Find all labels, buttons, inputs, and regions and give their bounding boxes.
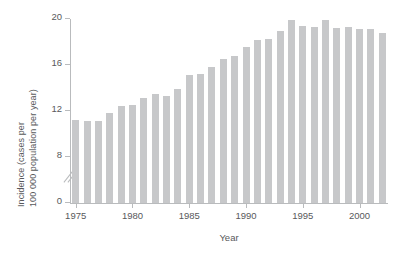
y-tick-label-20: 20 (51, 11, 62, 22)
bar-1986 (197, 74, 204, 203)
bar-chart-figure: Incidence (cases per 100 000 population … (0, 0, 404, 254)
y-axis-title: Incidence (cases per 100 000 population … (0, 0, 50, 215)
bar-1998 (333, 28, 340, 203)
x-axis-title: Year (70, 232, 388, 243)
bar-1981 (140, 98, 147, 203)
bar-1992 (265, 39, 272, 203)
bar-1975 (72, 120, 79, 203)
x-tick-label-1980: 1980 (122, 210, 143, 221)
x-tick-1975 (76, 203, 77, 208)
x-tick-1985 (189, 203, 190, 208)
x-tick-1990 (246, 203, 247, 208)
bar-1979 (118, 106, 125, 203)
y-axis-title-line-2: 100 000 population per year) (28, 89, 38, 207)
x-tick-label-2000: 2000 (349, 210, 370, 221)
bar-1990 (243, 47, 250, 203)
y-tick-label-12: 12 (51, 103, 62, 114)
bar-1984 (174, 89, 181, 203)
bar-1988 (220, 59, 227, 203)
x-tick-label-1975: 1975 (65, 210, 86, 221)
x-tick-label-1995: 1995 (292, 210, 313, 221)
bar-1989 (231, 56, 238, 203)
x-axis-line (70, 203, 388, 204)
bar-1977 (95, 121, 102, 203)
bar-1983 (163, 96, 170, 203)
bar-1995 (299, 26, 306, 203)
bar-1997 (322, 20, 329, 203)
bar-1980 (129, 105, 136, 203)
bar-1978 (106, 113, 113, 203)
y-tick-label-0: 0 (57, 195, 62, 206)
x-tick-label-1985: 1985 (179, 210, 200, 221)
y-axis-title-line-1: Incidence (cases per (16, 122, 26, 207)
x-tick-2000 (360, 203, 361, 208)
bar-1999 (345, 27, 352, 203)
bar-1993 (277, 31, 284, 204)
bar-1987 (208, 67, 215, 203)
x-tick-1995 (303, 203, 304, 208)
bar-1982 (152, 94, 159, 203)
bar-2000 (356, 29, 363, 203)
bar-1976 (84, 121, 91, 203)
bar-1994 (288, 20, 295, 203)
y-tick-label-8: 8 (57, 149, 62, 160)
bar-2001 (367, 29, 374, 203)
y-tick-label-16: 16 (51, 57, 62, 68)
bar-1985 (186, 75, 193, 203)
bar-1991 (254, 40, 261, 203)
bar-series (70, 19, 388, 203)
plot-area: 08121620 197519801985199019952000 (70, 19, 388, 203)
bar-1996 (311, 27, 318, 203)
x-tick-label-1990: 1990 (235, 210, 256, 221)
x-tick-1980 (132, 203, 133, 208)
bar-2002 (379, 33, 386, 203)
